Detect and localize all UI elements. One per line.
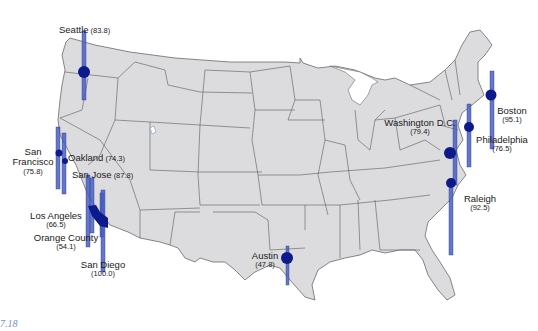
- label-san-jose: San Jose(87.8): [72, 164, 133, 182]
- label-philadelphia: Philadelphia (76.5): [474, 135, 530, 154]
- bar-philadelphia: [467, 104, 471, 167]
- label-orange-county: Orange County (54.1): [30, 233, 102, 252]
- label-oakland: Oakland(74.3): [68, 147, 125, 165]
- figure-number: 7.18: [0, 318, 18, 329]
- label-austin: Austin (47.8): [248, 251, 282, 270]
- metro-boston: [486, 90, 497, 101]
- metro-raleigh: [446, 178, 456, 188]
- bar-austin: [286, 246, 289, 285]
- metro-dc: [444, 147, 456, 159]
- label-san-francisco: San Francisco (75.8): [8, 147, 58, 176]
- metro-austin: [281, 252, 293, 264]
- label-boston: Boston (95.1): [494, 106, 530, 125]
- label-san-diego: San Diego (100.0): [78, 260, 128, 279]
- bar-seattle: [82, 31, 86, 100]
- label-los-angeles: Los Angeles (66.5): [24, 211, 88, 230]
- metro-philadelphia: [464, 122, 474, 132]
- label-seattle: Seattle(83.8): [59, 19, 110, 37]
- metro-seattle: [78, 66, 90, 78]
- label-washington-dc: Washington D.C. (79.4): [384, 118, 456, 137]
- bar-raleigh: [449, 179, 453, 255]
- label-raleigh: Raleigh (92.5): [462, 194, 498, 213]
